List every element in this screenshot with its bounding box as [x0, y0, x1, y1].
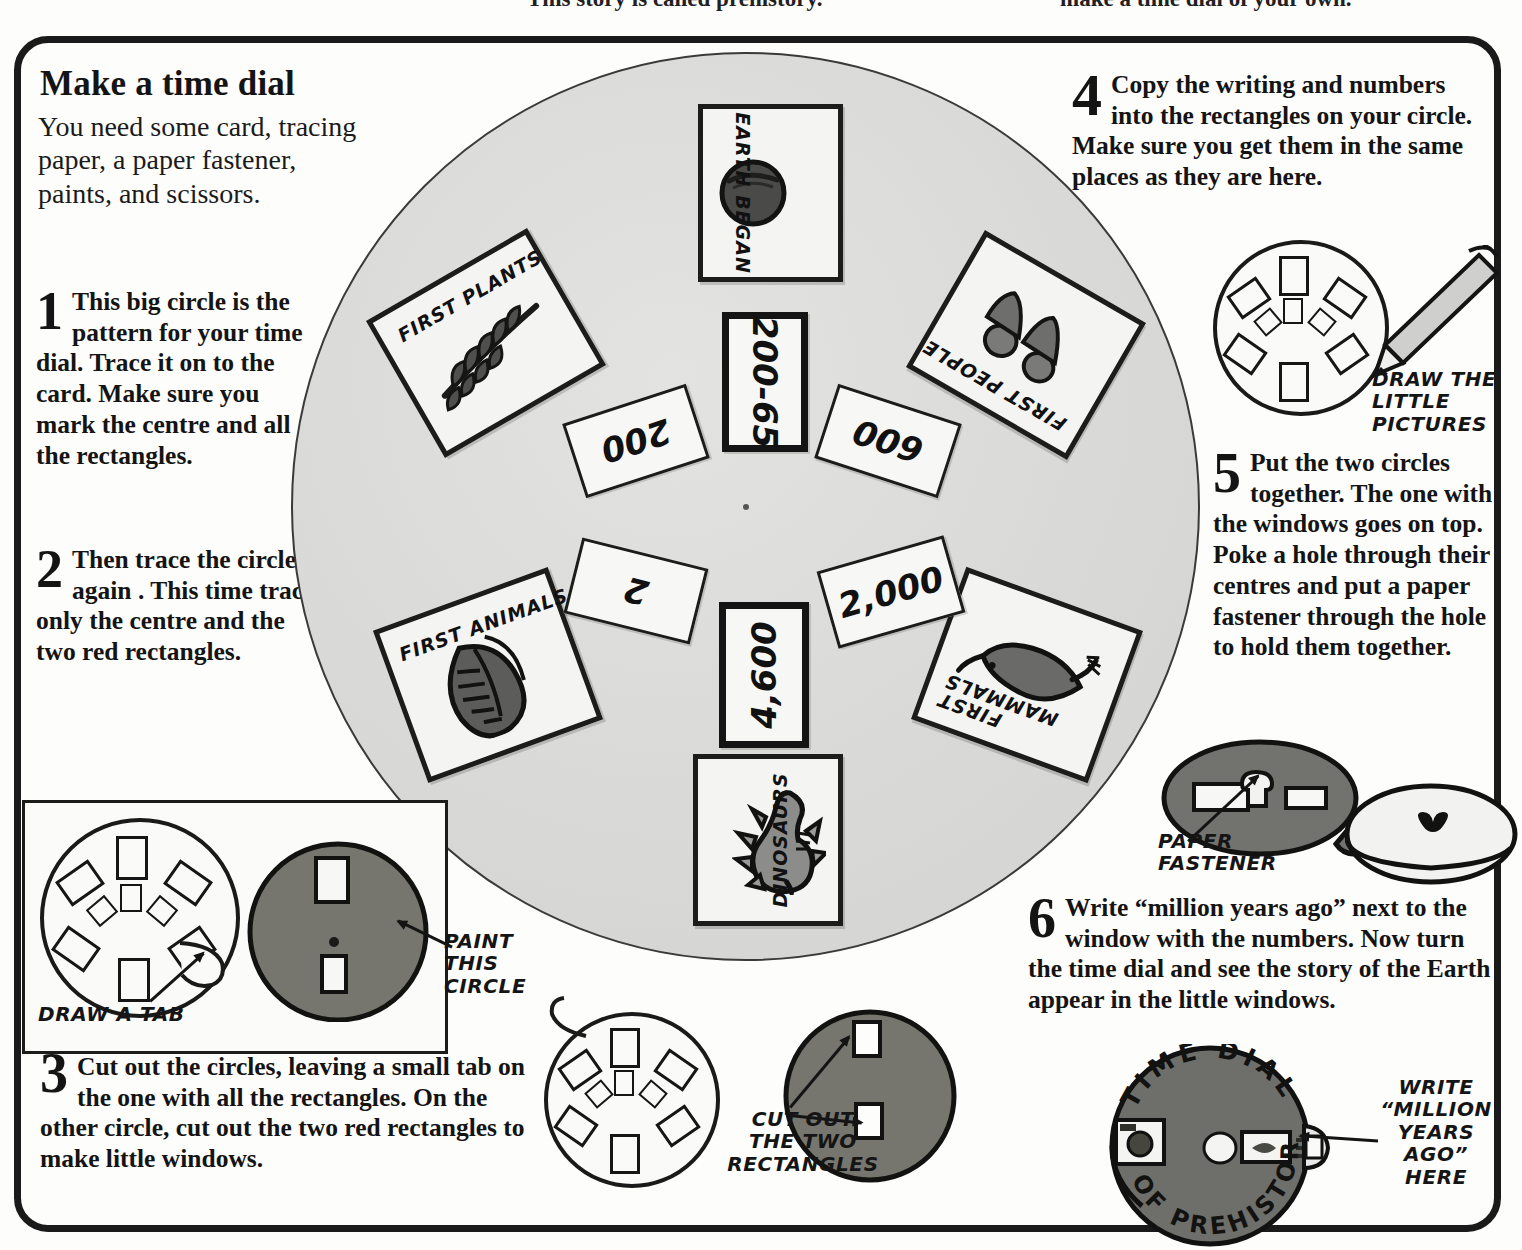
mini-rect [553, 1104, 599, 1148]
picture-card-dinosaurs: DINOSAURS [693, 754, 843, 926]
mini-rect [146, 895, 179, 927]
annotation-draw-little-pictures: DRAW THE LITTLE PICTURES [1372, 368, 1512, 435]
picture-card-earth-began-label: EARTH BEGAN [732, 112, 754, 274]
cut-off-text-right: make a time dial of your own. [1060, 0, 1352, 12]
number-card-200-65-value: 200-65 [702, 346, 828, 418]
step-6-text: Write “million years ago” next to the wi… [1028, 893, 1491, 1014]
number-card-200-value: 200 [566, 388, 706, 495]
step-6-number: 6 [1028, 895, 1056, 942]
step-4-number: 4 [1072, 70, 1102, 120]
annotation-paint-this-circle: PAINT THIS CIRCLE [444, 930, 554, 997]
annotation-write-million-years: WRITE “MILLION YEARS AGO” HERE [1366, 1076, 1506, 1188]
page-title: Make a time dial [40, 64, 295, 104]
finished-time-dial: TIME DIAL OF PREHISTORY [1096, 1044, 1336, 1250]
annotation-paper-fastener: PAPER FASTENER [1158, 830, 1308, 875]
number-card-600: 600 [814, 384, 962, 498]
planet-icon [717, 154, 795, 232]
step-5-number: 5 [1213, 450, 1241, 497]
step-4: 4 Copy the writing and numbers into the … [1072, 70, 1492, 193]
mini-rect [1253, 307, 1283, 336]
picture-card-dinosaurs-label: DINOSAURS [769, 772, 791, 907]
step-5: 5 Put the two circles together. The one … [1213, 448, 1505, 663]
number-card-200: 200 [562, 384, 710, 498]
mini-rect [86, 895, 119, 927]
number-card-4600: 4,600 [719, 602, 809, 748]
mini-rect [1307, 307, 1337, 336]
mini-rect [584, 1079, 614, 1108]
step-4-text: Copy the writing and numbers into the re… [1072, 70, 1472, 191]
step-3: 3 Cut out the circles, leaving a small t… [40, 1052, 540, 1175]
step-1-text: This big circle is the pattern for your … [36, 287, 303, 470]
light-circle-with-fastener-slit [1345, 780, 1522, 900]
picture-card-earth-began: EARTH BEGAN [698, 104, 843, 282]
mini-rect [51, 925, 101, 973]
number-card-600-value: 600 [818, 388, 958, 495]
mini-rect [653, 1048, 699, 1092]
step-1: 1 This big circle is the pattern for you… [36, 287, 324, 471]
step-5-text: Put the two circles together. The one wi… [1213, 448, 1492, 661]
step-2-number: 2 [36, 547, 63, 592]
step-6: 6 Write “million years ago” next to the … [1028, 893, 1496, 1016]
step-3-text: Cut out the circles, leaving a small tab… [40, 1052, 525, 1173]
tab-shape [176, 935, 246, 991]
mini-rect [1279, 362, 1309, 402]
mini-rect [610, 1028, 640, 1068]
mini-rect [1283, 298, 1303, 324]
mini-rect [614, 1070, 634, 1096]
cutout-tab-shape [534, 996, 594, 1044]
mini-rect [118, 958, 150, 1002]
step-3-number: 3 [40, 1050, 68, 1097]
mini-rect [116, 836, 148, 880]
annotation-cut-out-two-rectangles: CUT OUT THE TWO RECTANGLES [712, 1108, 894, 1175]
dark-painted-circle [238, 840, 438, 1022]
cut-off-header-text: This story is called prehistory. make a … [0, 0, 1515, 12]
number-card-2: 2 [563, 537, 708, 644]
step-1-number: 1 [36, 289, 63, 334]
materials-text: You need some card, tracing paper, a pap… [38, 110, 374, 210]
mini-rect [655, 1104, 701, 1148]
mini-rect [1222, 332, 1268, 376]
number-card-4600-value: 4,600 [698, 637, 830, 713]
number-card-200-65: 200-65 [722, 312, 808, 452]
mini-rect [638, 1079, 668, 1108]
mini-rect [610, 1134, 640, 1174]
annotation-draw-a-tab: DRAW A TAB [38, 1003, 228, 1025]
mini-rect [163, 859, 213, 907]
cut-off-text-left: This story is called prehistory. [527, 0, 822, 12]
number-card-2-value: 2 [567, 541, 705, 641]
number-card-2000-value: 2,000 [820, 539, 962, 645]
mini-rect [120, 884, 142, 912]
step-2: 2 Then trace the circle again . This tim… [36, 545, 328, 668]
step-2-text: Then trace the circle again . This time … [36, 545, 314, 666]
mini-rect [1279, 256, 1309, 296]
